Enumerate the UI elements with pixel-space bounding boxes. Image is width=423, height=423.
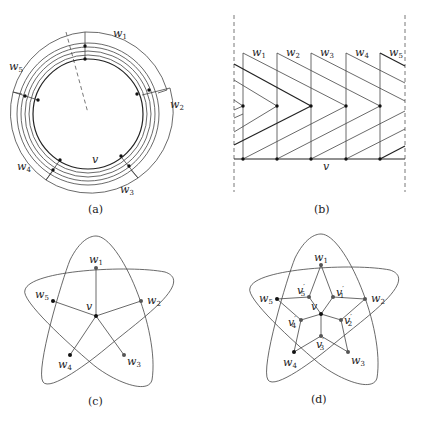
label-w4: w4 [283, 356, 297, 370]
ring [17, 43, 159, 185]
vertex-dot [135, 92, 138, 95]
ring [25, 51, 151, 177]
ring [29, 55, 147, 173]
label-w4: w4 [58, 358, 72, 372]
label-v: v [323, 160, 330, 173]
label-w3: w3 [127, 355, 141, 369]
label-w2: w2 [371, 292, 385, 306]
diag [234, 106, 311, 145]
diag [311, 53, 405, 101]
vertex-v [94, 314, 98, 318]
vertex-v [319, 312, 323, 316]
diag [380, 146, 405, 159]
panel-b: w1 w2 w3 w4 w5 v (b) [234, 15, 405, 216]
panel-c: w1 w2 w3 w4 w5 v (c) [25, 236, 174, 408]
vertex-dot [378, 104, 381, 107]
diag [277, 106, 380, 159]
vertex-dot [309, 104, 312, 107]
edge-v-v4p [301, 314, 321, 320]
vertex-w3 [346, 350, 350, 354]
label-w3: w3 [120, 183, 134, 197]
vertex-dot [378, 157, 381, 160]
vertex-dot [241, 104, 244, 107]
diag [234, 106, 277, 132]
label-w1: w1 [89, 253, 103, 267]
label-v: v [311, 300, 318, 313]
label-v1p: v′1 [336, 285, 344, 300]
vertex-v1p [331, 295, 335, 299]
vertex-dot [241, 157, 244, 160]
label-w1: w1 [113, 27, 127, 41]
diag [234, 114, 243, 118]
diag [234, 64, 311, 106]
vertex-w5 [275, 297, 279, 301]
label-w5: w5 [389, 46, 403, 60]
caption-c: (c) [88, 395, 103, 408]
vertex-w4 [292, 350, 296, 354]
vertex-dot [127, 164, 130, 167]
vertex-dot [51, 168, 54, 171]
label-v: v [86, 300, 93, 313]
vertex-w2 [139, 299, 143, 303]
caption-d: (d) [311, 393, 327, 406]
label-v: v [92, 153, 99, 166]
label-w2: w2 [170, 98, 184, 112]
label-w5: w5 [259, 292, 273, 306]
label-w5: w5 [9, 60, 23, 74]
label-v4p: v′4 [288, 315, 297, 330]
diag [277, 53, 380, 106]
band-w1 [85, 32, 167, 93]
diag [243, 53, 346, 106]
vertex-dot [36, 98, 39, 101]
diag [311, 111, 405, 159]
figure-canvas: w1 w2 w3 w4 w5 v (a) [0, 0, 423, 423]
label-w4: w4 [17, 160, 31, 174]
edge-v-v1p [321, 297, 333, 314]
vertex-v2p [339, 318, 343, 322]
label-w1: w1 [252, 46, 266, 60]
vertex-dot [344, 157, 347, 160]
vertex-w1 [94, 266, 98, 270]
label-w3: w3 [320, 46, 334, 60]
vertex-dot [147, 88, 150, 91]
vertex-dot [275, 157, 278, 160]
label-w2: w2 [147, 294, 161, 308]
ring [21, 47, 155, 181]
edge-v-v2p [321, 314, 341, 320]
edge-v-w3 [96, 316, 124, 355]
vertex-w4 [68, 353, 72, 357]
vertex-v5p [307, 295, 311, 299]
label-w2: w2 [286, 46, 300, 60]
vertex-w3 [122, 353, 126, 357]
vertex-w2 [363, 297, 367, 301]
vertex-dot [119, 154, 122, 157]
vertex-dot [309, 157, 312, 160]
vertex-w5 [51, 299, 55, 303]
vertex-dot [23, 94, 26, 97]
caption-b: (b) [314, 203, 330, 216]
vertex-dot [83, 57, 86, 60]
label-v3p: v′3 [316, 337, 324, 352]
vertex-dot [275, 104, 278, 107]
panel-a: w1 w2 w3 w4 w5 v (a) [9, 27, 184, 216]
edge-v-w2 [96, 301, 141, 316]
label-v5p: v′5 [297, 283, 305, 298]
panel-d: w1 w2 w3 w4 w5 v v′1 v′2 v′3 v′4 v′5 (d) [250, 234, 399, 406]
vertex-dot [83, 44, 86, 47]
caption-a: (a) [88, 203, 103, 216]
vertex-dot [344, 104, 347, 107]
label-v2p: v′2 [344, 313, 352, 328]
label-w5: w5 [35, 288, 49, 302]
label-w4: w4 [355, 46, 369, 60]
vertex-v4p [299, 318, 303, 322]
vertex-dot [58, 158, 61, 161]
edge-v-w4 [70, 316, 96, 355]
vertex-v-circle [33, 59, 143, 169]
diag [346, 129, 405, 159]
label-w3: w3 [351, 354, 365, 368]
label-w1: w1 [314, 251, 328, 265]
